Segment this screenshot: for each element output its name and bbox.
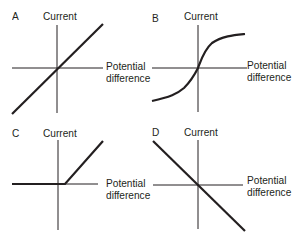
panel-b-letter: B: [152, 12, 159, 24]
panel-d-graph: [153, 140, 245, 231]
panel-c-letter: C: [12, 127, 19, 139]
panel-a-graph: [12, 24, 103, 114]
panel-b-y-label: Current: [184, 10, 218, 22]
iv-graphs-diagram: [0, 0, 294, 241]
panel-a-y-label: Current: [43, 10, 77, 22]
panel-a-x-label-1: Potential: [106, 60, 145, 72]
panel-b-x-label-1: Potential: [247, 59, 286, 71]
panel-b-x-label-2: difference: [247, 71, 291, 83]
panel-d-curve: [153, 141, 245, 231]
panel-c-y-label: Current: [43, 127, 77, 139]
panel-c-graph: [12, 140, 103, 230]
panel-d-x-label-2: difference: [247, 186, 291, 198]
panel-d-y-label: Current: [184, 126, 218, 138]
panel-c-x-label-2: difference: [106, 189, 150, 201]
panel-d-x-label-1: Potential: [247, 174, 286, 186]
panel-a-letter: A: [12, 10, 19, 22]
panel-b-graph: [152, 25, 247, 112]
panel-d-letter: D: [152, 126, 159, 138]
panel-a-x-label-2: difference: [106, 72, 150, 84]
panel-c-x-label-1: Potential: [106, 177, 145, 189]
